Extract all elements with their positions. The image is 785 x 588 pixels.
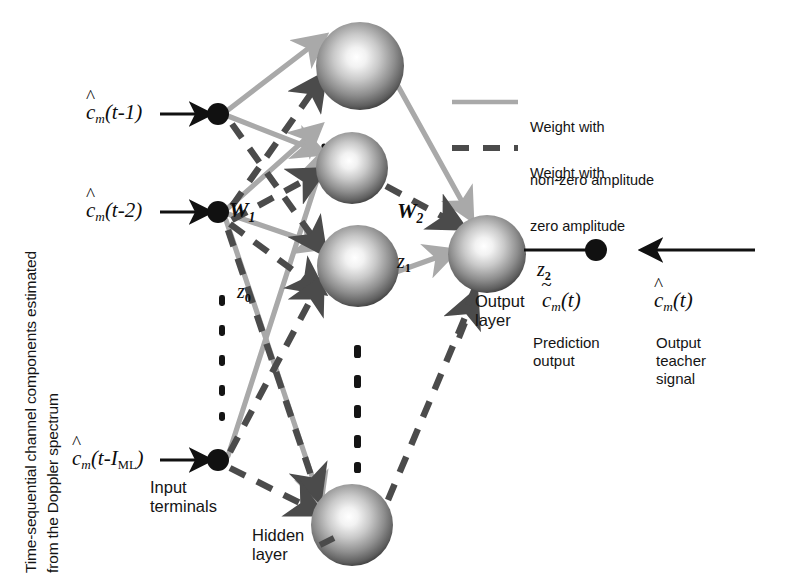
hidden-layer-neurons <box>311 22 404 566</box>
tilde-accent-icon: ~ <box>541 274 551 296</box>
input-label-1: ^cm(t-1) <box>86 100 142 127</box>
hidden-neuron <box>316 22 404 110</box>
z1-label: z1 <box>397 250 411 276</box>
hidden-neuron <box>311 484 393 566</box>
hidden-neuron <box>316 132 388 204</box>
input-terminal <box>207 449 229 471</box>
input-feed-arrows <box>160 114 210 460</box>
hidden-layer-label: Hiddenlayer <box>252 526 304 564</box>
z0-label: z0 <box>237 280 251 306</box>
figure-root: Time-sequential channel components estim… <box>0 0 785 588</box>
legend-item-zero: Weight with zero amplitude <box>530 130 625 272</box>
hat-accent-icon: ^ <box>72 432 81 454</box>
input-label-3: ^cm(t-IML) <box>72 446 144 473</box>
input-terminal <box>207 201 229 223</box>
hat-accent-icon: ^ <box>86 86 95 108</box>
teacher-signal-symbol: ^cm(t) <box>654 288 693 315</box>
input-terminal-nodes <box>207 103 229 471</box>
input-terminal <box>207 103 229 125</box>
input-terminals-label: Inputterminals <box>150 478 217 516</box>
ellipsis-hidden-column <box>354 345 361 473</box>
weight-matrix-1-label: W1 <box>229 197 255 226</box>
prediction-output-caption: Predictionoutput <box>533 334 600 370</box>
legend-zero-line1: Weight with <box>530 165 625 183</box>
prediction-output-symbol: ~cm(t) <box>542 288 581 315</box>
hat-accent-icon: ^ <box>86 184 95 206</box>
ellipsis-input-column <box>219 295 225 421</box>
side-label-line1: Time-sequential channel components estim… <box>22 251 40 573</box>
legend-zero-line2: zero amplitude <box>530 218 625 236</box>
output-teacher-signal-caption: Outputteachersignal <box>656 334 706 388</box>
weight-matrix-2-label: W2 <box>397 198 423 227</box>
output-neuron <box>448 215 526 293</box>
output-layer-label: Outputlayer <box>475 292 525 330</box>
side-label-line2: from the Doppler spectrum <box>44 393 62 573</box>
input-label-2: ^cm(t-2) <box>86 198 142 225</box>
hidden-neuron <box>317 225 399 307</box>
hat-accent-icon: ^ <box>654 274 663 296</box>
